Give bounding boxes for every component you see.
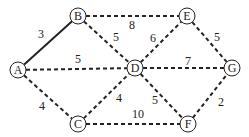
- edge-weight-b-d: 5: [113, 30, 119, 44]
- node-d: D: [127, 60, 143, 76]
- node-f: F: [180, 116, 196, 132]
- edge-a-c: [24, 75, 72, 118]
- edge-weight-d-f: 5: [152, 93, 158, 107]
- edge-d-e: [141, 22, 182, 63]
- node-label: G: [228, 61, 237, 75]
- edge-weight-d-g: 7: [185, 54, 191, 68]
- node-label: D: [131, 61, 140, 75]
- node-label: B: [74, 9, 82, 23]
- node-a: A: [10, 62, 26, 78]
- node-label: A: [14, 63, 23, 77]
- edge-weight-c-f: 10: [132, 107, 144, 121]
- edge-weight-f-g: 2: [218, 95, 224, 109]
- edge-weight-a-d: 5: [75, 52, 81, 66]
- node-g: G: [224, 60, 240, 76]
- edge-weight-d-e: 6: [150, 31, 156, 45]
- node-e: E: [179, 8, 195, 24]
- node-c: C: [70, 116, 86, 132]
- edge-e-g: [192, 22, 227, 62]
- edge-weight-a-b: 3: [38, 27, 44, 41]
- edge-a-d: [26, 68, 127, 70]
- node-label: E: [183, 9, 190, 23]
- weighted-graph-diagram: 3855657445210 ABEDGCF: [0, 0, 249, 137]
- edge-weight-c-d: 4: [116, 91, 122, 105]
- edge-c-d: [84, 74, 130, 119]
- node-label: F: [185, 117, 192, 131]
- edge-a-b: [24, 21, 72, 64]
- node-b: B: [70, 8, 86, 24]
- graph-edges: [24, 16, 227, 124]
- edge-weight-e-g: 5: [214, 30, 220, 44]
- graph-nodes: ABEDGCF: [10, 8, 240, 132]
- edge-b-d: [84, 21, 129, 62]
- edge-weight-b-e: 8: [129, 18, 135, 32]
- node-label: C: [74, 117, 82, 131]
- edge-d-f: [140, 74, 182, 118]
- edge-weight-a-c: 4: [39, 99, 45, 113]
